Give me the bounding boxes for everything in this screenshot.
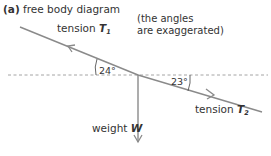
weight-prefix: weight (92, 122, 131, 134)
note-exaggerated: (the angles are exaggerated) (137, 13, 224, 37)
angle-label-right: 23° (171, 76, 188, 88)
angle-arc-right-icon (188, 75, 190, 91)
tension-t1-prefix: tension (57, 22, 99, 34)
weight-label: weight W (92, 122, 142, 134)
weight-symbol: W (131, 122, 143, 134)
diagram-title-tag: (a) (3, 3, 20, 15)
note-line-2: are exaggerated) (137, 25, 224, 37)
tension-t2-label: tension T2 (195, 103, 249, 119)
tension-t1-subscript: 1 (106, 28, 111, 36)
angle-label-left: 24° (99, 65, 116, 77)
angle-arc-left-icon (95, 59, 97, 75)
note-line-1: (the angles (137, 13, 224, 25)
tension-t1-label: tension T1 (57, 22, 111, 38)
diagram-title: (a) free body diagram (3, 3, 120, 15)
tension-t2-subscript: 2 (244, 109, 249, 117)
diagram-title-text: free body diagram (23, 3, 120, 15)
tension-t2-prefix: tension (195, 103, 237, 115)
